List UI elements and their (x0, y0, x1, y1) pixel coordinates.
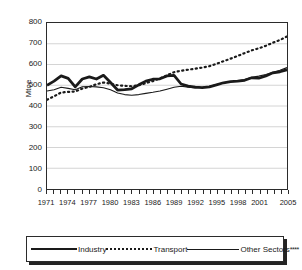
x-axis-tick-mark (238, 190, 239, 194)
x-axis-tick-mark (167, 190, 168, 194)
chart-figure: Mtoe 8007006005004003002001000 197119741… (0, 0, 302, 270)
legend-label-transport: Transport (153, 245, 187, 254)
y-axis-tick: 700 (16, 39, 42, 47)
x-axis-tick-mark (281, 190, 282, 194)
x-axis-tick-mark (195, 190, 196, 194)
x-axis-tick-mark (139, 190, 140, 194)
y-axis-tick-labels: 8007006005004003002001000 (16, 16, 42, 196)
gridlines-group (47, 44, 287, 169)
x-axis-tick-mark (96, 190, 97, 194)
y-axis-tick: 200 (16, 144, 42, 152)
x-axis-tick-mark (217, 190, 218, 194)
x-axis-tick-mark (181, 190, 182, 194)
x-axis-tick-mark (60, 190, 61, 194)
x-axis-tick-mark (67, 190, 68, 194)
legend-label-industry: Industry (78, 245, 106, 254)
chart-legend: Industry Transport Other Sectors**** (26, 236, 284, 262)
chart-area: Mtoe 8007006005004003002001000 197119741… (0, 0, 302, 215)
x-axis-tick-mark (203, 190, 204, 194)
x-axis-tick-mark (288, 190, 289, 194)
x-axis-tick-mark (131, 190, 132, 194)
legend-swatch-other-sectors-icon (187, 249, 239, 250)
x-axis-tick-mark (89, 190, 90, 194)
x-axis-tick-mark (224, 190, 225, 194)
x-axis-tick-mark (260, 190, 261, 194)
x-axis-tick-mark (110, 190, 111, 194)
series-line-transport (47, 36, 287, 99)
x-axis-tick-mark (188, 190, 189, 194)
legend-item-transport: Transport (106, 245, 187, 254)
legend-swatch-transport-icon (106, 248, 152, 250)
y-axis-tick: 100 (16, 165, 42, 173)
x-axis-tick-mark (153, 190, 154, 194)
x-axis-tick-mark (146, 190, 147, 194)
x-axis-tick-mark (103, 190, 104, 194)
y-axis-tick: 400 (16, 102, 42, 110)
y-axis-tick: 800 (16, 18, 42, 26)
x-axis-tick: 2001 (248, 198, 272, 208)
legend-label-other-sectors: Other Sectors (240, 245, 289, 254)
x-axis-tick-mark (117, 190, 118, 194)
x-axis-tick: 2005 (276, 198, 300, 208)
x-axis-tick-mark (210, 190, 211, 194)
x-axis-tick-mark (252, 190, 253, 194)
y-axis-tick: 300 (16, 123, 42, 131)
x-axis-tick-mark (53, 190, 54, 194)
y-axis-tick: 500 (16, 81, 42, 89)
x-axis-tick-mark (174, 190, 175, 194)
x-axis-tick-mark (231, 190, 232, 194)
x-axis-tick-mark (82, 190, 83, 194)
x-axis-tick-labels: 1971197419771980198319861989199219951998… (0, 196, 302, 210)
x-axis-tick-mark (274, 190, 275, 194)
x-axis-tick-mark (160, 190, 161, 194)
legend-swatch-industry-icon (31, 248, 77, 250)
legend-item-industry: Industry (31, 245, 106, 254)
series-canvas (47, 23, 287, 189)
x-axis-tick-mark (46, 190, 47, 194)
x-axis-tick-mark (74, 190, 75, 194)
legend-item-other-sectors: Other Sectors**** (187, 245, 298, 254)
y-axis-tick: 0 (16, 186, 42, 194)
series-line-other-sectors (47, 68, 287, 96)
legend-label-other-sectors-superscript: **** (290, 246, 299, 253)
x-axis-tick-mark (124, 190, 125, 194)
x-axis-tick-mark (267, 190, 268, 194)
y-axis-tick: 600 (16, 60, 42, 68)
x-axis-tick-mark (245, 190, 246, 194)
plot-area (46, 22, 288, 190)
